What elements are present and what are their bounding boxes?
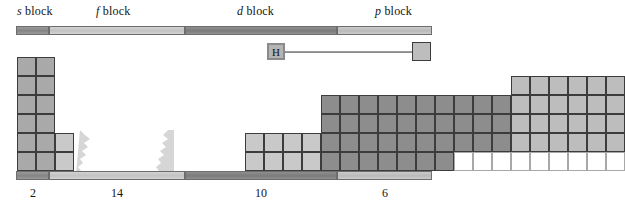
grid-cell-d-c18-r2[interactable] <box>359 95 378 114</box>
grid-cell-s-c1-r5[interactable] <box>36 152 55 171</box>
grid-cell-f-c3-r4[interactable] <box>74 133 93 152</box>
top-span-bar-p <box>337 26 432 35</box>
grid-cell-d-c19-r2[interactable] <box>378 95 397 114</box>
grid-cell-p-c28-r1[interactable] <box>549 76 568 95</box>
grid-cell-s-c0-r1[interactable] <box>17 76 36 95</box>
grid-cell-d-c19-r3[interactable] <box>378 114 397 133</box>
block-symbol-s: s <box>17 4 22 18</box>
grid-cell-f-c14-r5[interactable] <box>283 152 302 171</box>
grid-cell-p-c30-r2[interactable] <box>587 95 606 114</box>
grid-cell-empty-c29-r5[interactable] <box>568 152 587 171</box>
grid-cell-d-c25-r2[interactable] <box>492 95 511 114</box>
grid-cell-d-c24-r3[interactable] <box>473 114 492 133</box>
grid-cell-empty-c25-r5[interactable] <box>492 152 511 171</box>
grid-cell-p-c27-r1[interactable] <box>530 76 549 95</box>
grid-cell-f-c14-r4[interactable] <box>283 133 302 152</box>
grid-cell-s-c1-r1[interactable] <box>36 76 55 95</box>
grid-cell-d-c18-r5[interactable] <box>359 152 378 171</box>
grid-cell-empty-c28-r5[interactable] <box>549 152 568 171</box>
grid-cell-s-c0-r3[interactable] <box>17 114 36 133</box>
grid-cell-p-c28-r4[interactable] <box>549 133 568 152</box>
grid-cell-d-c16-r4[interactable] <box>321 133 340 152</box>
grid-cell-d-c16-r2[interactable] <box>321 95 340 114</box>
grid-cell-f-c15-r5[interactable] <box>302 152 321 171</box>
grid-cell-d-c17-r2[interactable] <box>340 95 359 114</box>
grid-cell-empty-c27-r5[interactable] <box>530 152 549 171</box>
grid-cell-d-c17-r5[interactable] <box>340 152 359 171</box>
grid-cell-d-c19-r4[interactable] <box>378 133 397 152</box>
helium-cell[interactable] <box>412 42 431 61</box>
grid-cell-p-c26-r3[interactable] <box>511 114 530 133</box>
grid-cell-f-c15-r4[interactable] <box>302 133 321 152</box>
grid-cell-f-c2-r4[interactable] <box>55 133 74 152</box>
grid-cell-d-c25-r3[interactable] <box>492 114 511 133</box>
grid-cell-d-c23-r2[interactable] <box>454 95 473 114</box>
hydrogen-connector-line <box>285 51 412 53</box>
grid-cell-d-c21-r2[interactable] <box>416 95 435 114</box>
grid-cell-d-c23-r4[interactable] <box>454 133 473 152</box>
grid-cell-d-c22-r3[interactable] <box>435 114 454 133</box>
grid-cell-p-c27-r4[interactable] <box>530 133 549 152</box>
grid-cell-f-c13-r4[interactable] <box>264 133 283 152</box>
grid-cell-d-c21-r3[interactable] <box>416 114 435 133</box>
grid-cell-d-c20-r3[interactable] <box>397 114 416 133</box>
grid-cell-d-c25-r4[interactable] <box>492 133 511 152</box>
grid-cell-empty-c23-r5[interactable] <box>454 152 473 171</box>
grid-cell-f-c12-r4[interactable] <box>245 133 264 152</box>
grid-cell-s-c0-r2[interactable] <box>17 95 36 114</box>
grid-cell-d-c19-r5[interactable] <box>378 152 397 171</box>
grid-cell-p-c31-r1[interactable] <box>606 76 625 95</box>
grid-cell-p-c29-r3[interactable] <box>568 114 587 133</box>
grid-cell-empty-c31-r5[interactable] <box>606 152 625 171</box>
grid-cell-d-c21-r5[interactable] <box>416 152 435 171</box>
grid-cell-d-c17-r3[interactable] <box>340 114 359 133</box>
grid-cell-d-c16-r3[interactable] <box>321 114 340 133</box>
grid-cell-d-c20-r2[interactable] <box>397 95 416 114</box>
grid-cell-p-c31-r2[interactable] <box>606 95 625 114</box>
grid-cell-p-c30-r4[interactable] <box>587 133 606 152</box>
grid-cell-p-c30-r1[interactable] <box>587 76 606 95</box>
grid-cell-d-c18-r3[interactable] <box>359 114 378 133</box>
grid-cell-p-c26-r4[interactable] <box>511 133 530 152</box>
grid-cell-d-c22-r2[interactable] <box>435 95 454 114</box>
grid-cell-f-c3-r5[interactable] <box>74 152 93 171</box>
grid-cell-p-c28-r2[interactable] <box>549 95 568 114</box>
grid-cell-empty-c26-r5[interactable] <box>511 152 530 171</box>
grid-cell-d-c16-r5[interactable] <box>321 152 340 171</box>
grid-cell-s-c0-r0[interactable] <box>17 57 36 76</box>
grid-cell-s-c1-r4[interactable] <box>36 133 55 152</box>
grid-cell-s-c1-r2[interactable] <box>36 95 55 114</box>
grid-cell-d-c22-r5[interactable] <box>435 152 454 171</box>
grid-cell-d-c22-r4[interactable] <box>435 133 454 152</box>
grid-cell-p-c26-r2[interactable] <box>511 95 530 114</box>
grid-cell-p-c29-r2[interactable] <box>568 95 587 114</box>
grid-cell-p-c29-r1[interactable] <box>568 76 587 95</box>
hydrogen-cell[interactable]: H <box>267 43 285 60</box>
grid-cell-d-c20-r4[interactable] <box>397 133 416 152</box>
grid-cell-p-c30-r3[interactable] <box>587 114 606 133</box>
grid-cell-f-c13-r5[interactable] <box>264 152 283 171</box>
grid-cell-p-c28-r3[interactable] <box>549 114 568 133</box>
grid-cell-s-c0-r5[interactable] <box>17 152 36 171</box>
grid-cell-s-c1-r0[interactable] <box>36 57 55 76</box>
grid-cell-f-c2-r5[interactable] <box>55 152 74 171</box>
grid-cell-p-c31-r3[interactable] <box>606 114 625 133</box>
grid-cell-d-c24-r4[interactable] <box>473 133 492 152</box>
grid-cell-s-c1-r3[interactable] <box>36 114 55 133</box>
grid-cell-empty-c30-r5[interactable] <box>587 152 606 171</box>
block-word-d: block <box>246 4 274 18</box>
grid-cell-d-c17-r4[interactable] <box>340 133 359 152</box>
grid-cell-p-c26-r1[interactable] <box>511 76 530 95</box>
grid-cell-p-c27-r3[interactable] <box>530 114 549 133</box>
grid-cell-empty-c24-r5[interactable] <box>473 152 492 171</box>
grid-cell-f-c12-r5[interactable] <box>245 152 264 171</box>
grid-cell-s-c0-r4[interactable] <box>17 133 36 152</box>
grid-cell-d-c18-r4[interactable] <box>359 133 378 152</box>
grid-cell-d-c24-r2[interactable] <box>473 95 492 114</box>
grid-cell-d-c21-r4[interactable] <box>416 133 435 152</box>
grid-cell-p-c31-r4[interactable] <box>606 133 625 152</box>
grid-cell-d-c20-r5[interactable] <box>397 152 416 171</box>
grid-cell-p-c27-r2[interactable] <box>530 95 549 114</box>
grid-cell-p-c29-r4[interactable] <box>568 133 587 152</box>
grid-cell-d-c23-r3[interactable] <box>454 114 473 133</box>
